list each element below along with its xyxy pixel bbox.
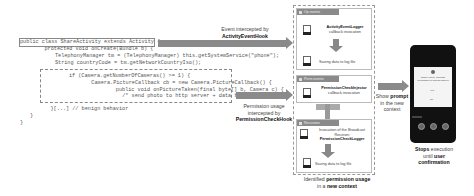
code-line: } [30, 113, 33, 120]
permission-dialog: ShareActivity requests permission to acc… [414, 67, 452, 107]
down-arrow [325, 144, 331, 152]
op-events-panel: Op events ActivityEventLogger callback i… [296, 8, 372, 70]
code-line: protected void onCreate(Bundle b) { [32, 46, 153, 53]
code-line: }[...] // benign behavior [38, 106, 128, 113]
code-line: if (Camera.getNumberOfCameras() >= 1) { [44, 73, 190, 80]
file-icon [303, 158, 311, 168]
dialog-icon [431, 70, 435, 74]
app-icon[interactable] [418, 123, 425, 130]
op-events-header: Op events [297, 9, 339, 15]
status-bar-tag [412, 116, 422, 118]
dialog-text: ShareActivity requests permission to acc… [415, 76, 451, 82]
broadcast-invocation: Invocation of the Broadcast Receiver Per… [311, 128, 373, 142]
down-arrow [333, 39, 339, 46]
middle-arrow-label: Permission usage intercepted by Permissi… [226, 103, 302, 123]
permission-check-injector: PermissionCheckInjector callback invocat… [315, 86, 373, 95]
arrow-to-op-events [158, 40, 286, 47]
recursion-panel: Recursion Invocation of the Broadcast Re… [296, 119, 372, 173]
activity-event-logger: ActivityEventLogger callback invocation [319, 25, 371, 34]
code-line: public class ShareActivity extends Activ… [20, 39, 160, 46]
connector-line [325, 104, 330, 120]
file-icon [300, 129, 308, 139]
show-prompt-label: Show prompt in the new context [372, 93, 412, 113]
code-line: Camera.PictureCallback cb = new Camera.P… [54, 80, 272, 87]
code-line: String countryCode = tm.getNetworkCountr… [30, 60, 201, 67]
app-icon[interactable] [442, 123, 449, 130]
file-icon [303, 88, 311, 98]
identified-caption: Identified permission usage in a new con… [282, 176, 392, 189]
arrow-to-perm-events [236, 92, 286, 99]
save-log-text: Saving data to log file [319, 60, 355, 65]
phone-caption: Stops execution until user confirmation [408, 146, 460, 166]
perm-events-panel: Perm events PermissionCheckInjector call… [296, 75, 372, 103]
phone-mockup: ShareActivity requests permission to acc… [410, 45, 456, 143]
perm-events-header: Perm events [297, 76, 339, 82]
code-line: /* send photo to http server + data thef… [60, 93, 262, 100]
dialog-no-button[interactable]: No [430, 98, 433, 103]
recursion-header: Recursion [297, 120, 339, 126]
arrow-to-phone [378, 83, 402, 90]
file-icon [303, 56, 311, 66]
code-line: TelephonyManager tm = (TelephonyManager)… [30, 53, 279, 60]
save-log-text: Saving data to log file [315, 162, 351, 167]
code-line: } [20, 120, 23, 127]
file-icon [303, 25, 311, 35]
top-arrow-label: Event intercepted by ActivityEventHook [200, 26, 290, 39]
dialog-yes-button[interactable]: Yes [430, 89, 434, 94]
app-icon[interactable] [430, 123, 437, 130]
